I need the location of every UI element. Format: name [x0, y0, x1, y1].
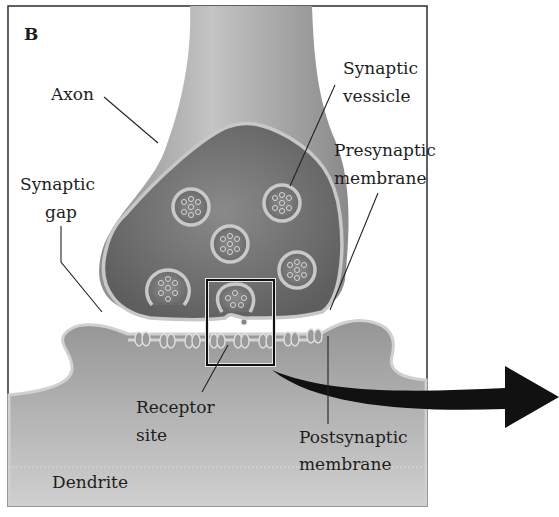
vesicle-icon [264, 185, 300, 221]
receptor-icon [185, 334, 200, 348]
label-presynaptic-1: Presynaptic [334, 140, 436, 160]
label-receptor-site-1: Receptor [136, 397, 215, 417]
vesicle-icon [212, 226, 248, 262]
receptor-icon [210, 334, 225, 348]
label-synaptic-vesicle-1: Synaptic [343, 58, 418, 78]
label-receptor-site-2: site [136, 425, 167, 445]
receptor-icon [284, 332, 299, 346]
receptor-icon [259, 334, 274, 348]
label-synaptic-gap-2: gap [45, 202, 77, 222]
label-dendrite: Dendrite [52, 472, 128, 492]
panel-label: B [24, 24, 38, 44]
label-postsynaptic-2: membrane [299, 454, 391, 474]
vesicle-icon [173, 189, 209, 225]
label-axon: Axon [50, 84, 94, 104]
label-synaptic-gap-1: Synaptic [20, 174, 95, 194]
label-postsynaptic-1: Postsynaptic [299, 427, 408, 447]
receptor-icon [135, 332, 150, 346]
receptor-icon [307, 329, 322, 343]
vesicle-icon [147, 270, 189, 305]
receptor-icon [160, 334, 175, 348]
synapse-diagram: B Axon Synaptic vessicle Presynaptic mem… [0, 0, 559, 517]
neurotransmitter-icon [241, 319, 247, 325]
receptor-icon [234, 334, 249, 348]
label-presynaptic-2: membrane [334, 168, 426, 188]
vesicle-icon [279, 252, 315, 288]
label-synaptic-vesicle-2: vessicle [342, 86, 411, 106]
